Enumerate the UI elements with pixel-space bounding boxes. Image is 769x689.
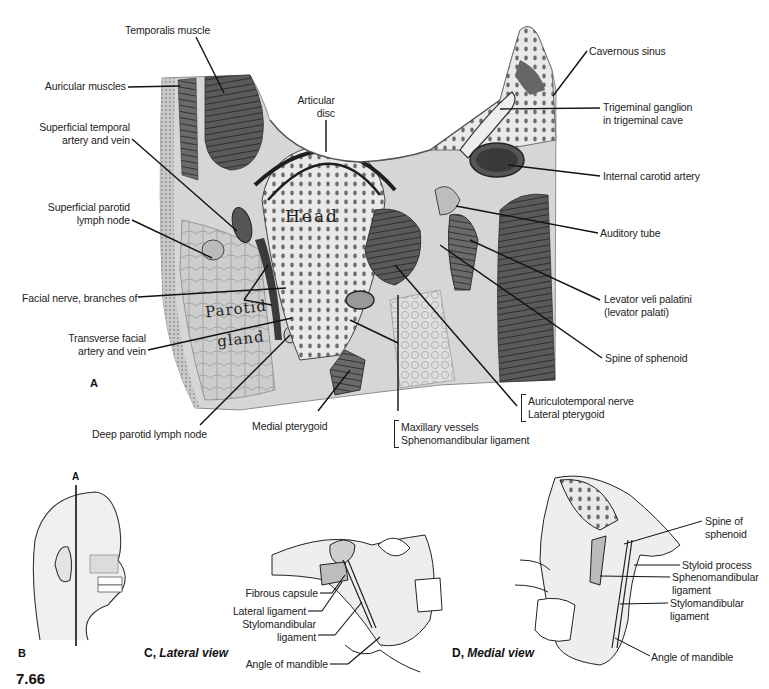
label-line: Maxillary vessels (401, 421, 529, 434)
label-spine-of-sphenoid-d: Spine of sphenoid (705, 515, 747, 540)
label-angle-of-mandible-c: Angle of mandible (220, 658, 328, 671)
panel-b-head-drawing (33, 492, 125, 640)
label-deep-parotid-lymph-node: Deep parotid lymph node (92, 428, 207, 441)
label-line: Articular (290, 94, 335, 107)
label-line: Spine of (705, 515, 747, 528)
label-temporalis-muscle: Temporalis muscle (125, 24, 210, 37)
label-fibrous-capsule: Fibrous capsule (200, 587, 318, 600)
label-styloid-process: Styloid process (682, 559, 752, 572)
label-line: ligament (200, 631, 316, 644)
panel-d-letter: D (452, 646, 461, 660)
label-transverse-facial: Transverse facial artery and vein (20, 332, 146, 357)
label-line: Auriculotemporal nerve (528, 395, 634, 408)
label-auditory-tube: Auditory tube (600, 227, 661, 240)
label-line: Levator veli palatini (604, 293, 692, 306)
panel-c-title: Lateral view (159, 646, 228, 660)
panel-d-drawing (515, 476, 680, 665)
label-line: ligament (672, 584, 759, 597)
panel-c-letter: C (144, 646, 153, 660)
label-superficial-parotid-lymph-node: Superficial parotid lymph node (10, 201, 130, 226)
panel-d-title: Medial view (467, 646, 534, 660)
label-maxillary-group: Maxillary vessels Sphenomandibular ligam… (401, 421, 529, 446)
label-line: in trigeminal cave (603, 114, 692, 127)
label-levator-veli-palatini: Levator veli palatini (levator palati) (604, 293, 692, 318)
label-trigeminal-ganglion: Trigeminal ganglion in trigeminal cave (603, 101, 692, 126)
label-cavernous-sinus: Cavernous sinus (589, 45, 666, 58)
bracket-maxillary (394, 420, 399, 448)
label-line: ligament (670, 610, 744, 623)
label-line: lymph node (10, 214, 130, 227)
label-spine-of-sphenoid: Spine of sphenoid (605, 352, 687, 365)
label-line: artery and vein (10, 134, 130, 147)
label-line: Sphenomandibular (672, 571, 759, 584)
label-stylomandibular-d: Stylomandibular ligament (670, 597, 744, 622)
panel-d-caption: D, Medial view (452, 646, 534, 660)
panel-a-letter: A (90, 377, 98, 389)
label-line: Stylomandibular (670, 597, 744, 610)
label-line: sphenoid (705, 528, 747, 541)
label-lateral-ligament: Lateral ligament (196, 605, 306, 618)
label-superficial-temporal: Superficial temporal artery and vein (10, 121, 130, 146)
label-facial-nerve: Facial nerve, branches of (22, 292, 137, 305)
label-internal-carotid: Internal carotid artery (603, 170, 700, 183)
label-line: Transverse facial (20, 332, 146, 345)
bracket-auriculotemporal (521, 394, 526, 422)
label-line: Sphenomandibular ligament (401, 434, 529, 447)
label-line: Lateral pterygoid (528, 408, 634, 421)
label-line: Trigeminal ganglion (603, 101, 692, 114)
panel-b-letter: B (18, 647, 26, 659)
label-articular-disc: Articular disc (290, 94, 335, 119)
panel-b-section-marker: A (72, 471, 79, 482)
panel-c-drawing (272, 535, 442, 672)
label-line: Superficial temporal (10, 121, 130, 134)
in-image-label-head: Head (285, 206, 339, 226)
figure-number: 7.66 (16, 670, 45, 687)
label-line: disc (290, 107, 335, 120)
label-line: artery and vein (20, 345, 146, 358)
panel-c-caption: C, Lateral view (144, 646, 228, 660)
label-medial-pterygoid: Medial pterygoid (252, 420, 327, 433)
label-line: Stylomandibular (200, 618, 316, 631)
label-sphenomandibular-d: Sphenomandibular ligament (672, 571, 759, 596)
label-auriculotemporal-group: Auriculotemporal nerve Lateral pterygoid (528, 395, 634, 420)
label-auricular-muscles: Auricular muscles (30, 80, 126, 93)
label-stylomandibular-c: Stylomandibular ligament (200, 618, 316, 643)
label-line: Superficial parotid (10, 201, 130, 214)
label-angle-of-mandible-d: Angle of mandible (651, 651, 733, 664)
label-line: (levator palati) (604, 306, 692, 319)
